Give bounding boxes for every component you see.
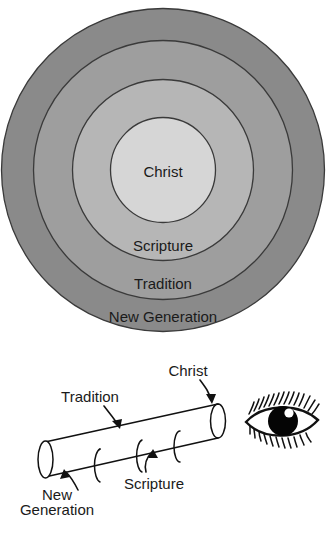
telescope-label-scripture: Scripture: [112, 476, 196, 491]
telescope-tube: [38, 404, 226, 482]
arrowhead-christ: [206, 394, 216, 404]
figure-canvas: Christ Scripture Tradition New Generatio…: [0, 0, 326, 535]
eye-iris: [268, 406, 298, 436]
telescope-label-new-generation-line2: Generation: [5, 502, 109, 517]
eye-highlight: [284, 408, 293, 417]
telescope-label-christ: Christ: [150, 363, 226, 378]
tube-body: [40, 404, 226, 477]
eye-icon: [246, 392, 319, 448]
tube-left-opening: [38, 441, 53, 478]
telescope-label-new-generation-line1: New: [24, 487, 90, 502]
telescope-diagram: [0, 0, 326, 535]
telescope-label-tradition: Tradition: [48, 389, 132, 404]
